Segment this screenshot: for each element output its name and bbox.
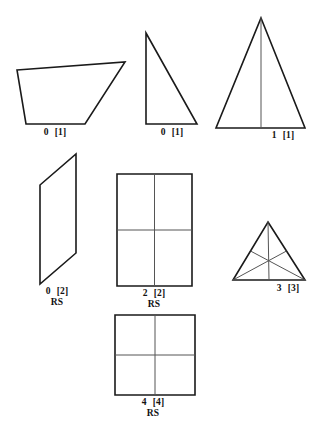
right-triangle-outline (146, 33, 197, 124)
shape-triangle-with-medians (233, 222, 305, 280)
right-triangle-bracket-count: [1] (172, 127, 184, 138)
square-with-2x2-grid-rs-marker: RS (113, 408, 193, 419)
isoceles-triangle-with-axis-symmetry-count: 1 (272, 130, 277, 141)
shape-square-with-2x2-grid (115, 315, 195, 395)
square-with-2x2-grid-symmetry-count: 4 (142, 397, 147, 408)
isoceles-triangle-with-axis-bracket-count: [1] (283, 130, 295, 141)
irregular-quadrilateral-label: 0[1] (15, 127, 95, 138)
rectangle-with-2x2-grid-rs-marker: RS (114, 299, 194, 310)
irregular-quadrilateral-outline (17, 62, 125, 124)
rectangle-with-2x2-grid-symmetry-count: 2 (143, 288, 148, 299)
triangle-with-medians-symmetry-count: 3 (277, 283, 282, 294)
irregular-quadrilateral-bracket-count: [1] (55, 127, 67, 138)
triangle-with-medians-bracket-count: [3] (288, 283, 300, 294)
right-triangle-symmetry-count: 0 (161, 127, 166, 138)
square-with-2x2-grid-label: 4[4]RS (113, 397, 193, 419)
shape-parallelogram (40, 154, 76, 284)
rectangle-with-2x2-grid-label: 2[2]RS (114, 288, 194, 310)
shape-right-triangle (146, 33, 197, 124)
shape-irregular-quadrilateral (17, 62, 125, 124)
parallelogram-rs-marker: RS (17, 297, 97, 308)
rectangle-with-2x2-grid-bracket-count: [2] (154, 288, 166, 299)
isoceles-triangle-with-axis-label: 1[1] (243, 130, 319, 141)
parallelogram-label: 0[2]RS (17, 286, 97, 308)
shape-isoceles-triangle-with-axis (216, 18, 305, 128)
geometry-figure-canvas (0, 0, 319, 432)
parallelogram-symmetry-count: 0 (46, 286, 51, 297)
shape-rectangle-with-2x2-grid (117, 174, 192, 286)
triangle-with-medians-label: 3[3] (248, 283, 319, 294)
parallelogram-bracket-count: [2] (57, 286, 69, 297)
parallelogram-outline (40, 154, 76, 284)
square-with-2x2-grid-bracket-count: [4] (153, 397, 165, 408)
right-triangle-label: 0[1] (132, 127, 212, 138)
irregular-quadrilateral-symmetry-count: 0 (44, 127, 49, 138)
triangle-with-medians-inner-line-0 (268, 222, 269, 280)
